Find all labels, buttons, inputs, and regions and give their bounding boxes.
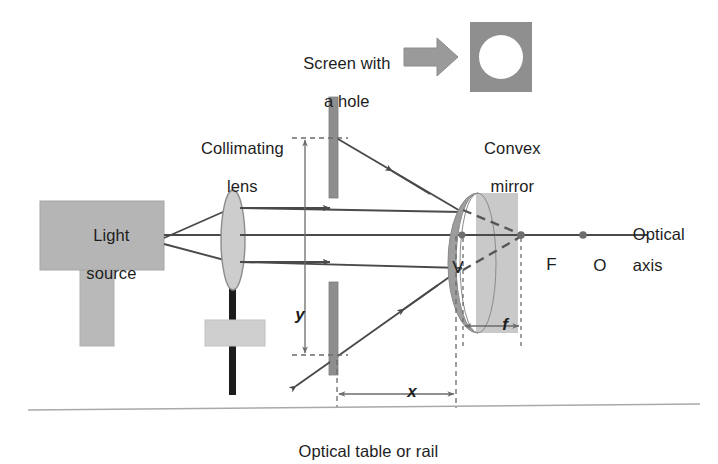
focus-point	[517, 231, 525, 239]
collimating-lens-label-line2: lens	[227, 177, 258, 195]
collimating-lens-label: Collimating lens	[163, 120, 303, 215]
collimating-lens-label-line1: Collimating	[201, 139, 284, 157]
block-arrow-icon	[404, 38, 458, 76]
vertex-label-text: V	[452, 258, 463, 277]
dimension-x-label-text: x	[407, 382, 417, 401]
collimating-lens-assembly	[205, 190, 265, 395]
screen-with-hole-label-line2: a hole	[324, 92, 370, 110]
optics-diagram: Light source Collimating lens Screen wit…	[0, 0, 718, 464]
convex-mirror-label-line1: Convex	[484, 139, 541, 157]
focus-label-text: F	[546, 255, 556, 274]
lens-base	[205, 320, 265, 346]
optical-table-label: Optical table or rail	[219, 423, 499, 464]
vertex-point	[459, 232, 466, 239]
convex-mirror-label: Convex mirror	[451, 120, 555, 215]
screen-with-hole-label-line1: Screen with	[303, 54, 390, 72]
light-source-label: Light source	[40, 207, 164, 302]
light-source-label-line1: Light	[93, 226, 129, 244]
convex-mirror-label-line2: mirror	[491, 177, 535, 195]
light-source-label-line2: source	[86, 264, 136, 282]
optical-axis-label-2: axis	[614, 237, 714, 294]
screen-with-hole	[329, 97, 338, 375]
screen-with-hole-label: Screen with a hole	[275, 35, 400, 130]
collimated-rays	[240, 208, 462, 268]
inset-callout	[404, 22, 532, 92]
dimension-x-label: x	[388, 363, 408, 420]
dimension-f-label-text: f	[502, 315, 508, 334]
screen-hole	[479, 35, 523, 79]
dimension-y-label: y	[276, 286, 296, 343]
optical-table-label-text: Optical table or rail	[299, 442, 439, 460]
vertex-label: V	[433, 239, 455, 296]
ray-reflected-upper-arrow	[392, 171, 430, 194]
ray-reflected-lower-far	[296, 362, 330, 386]
dimension-y-label-text: y	[295, 305, 305, 324]
optical-table-rail	[28, 404, 700, 410]
center-label: O	[574, 237, 594, 294]
center-label-text: O	[593, 256, 606, 275]
focus-label: F	[527, 236, 547, 293]
dimension-f-label: f	[483, 296, 501, 353]
optical-axis-label-line2: axis	[633, 256, 663, 274]
